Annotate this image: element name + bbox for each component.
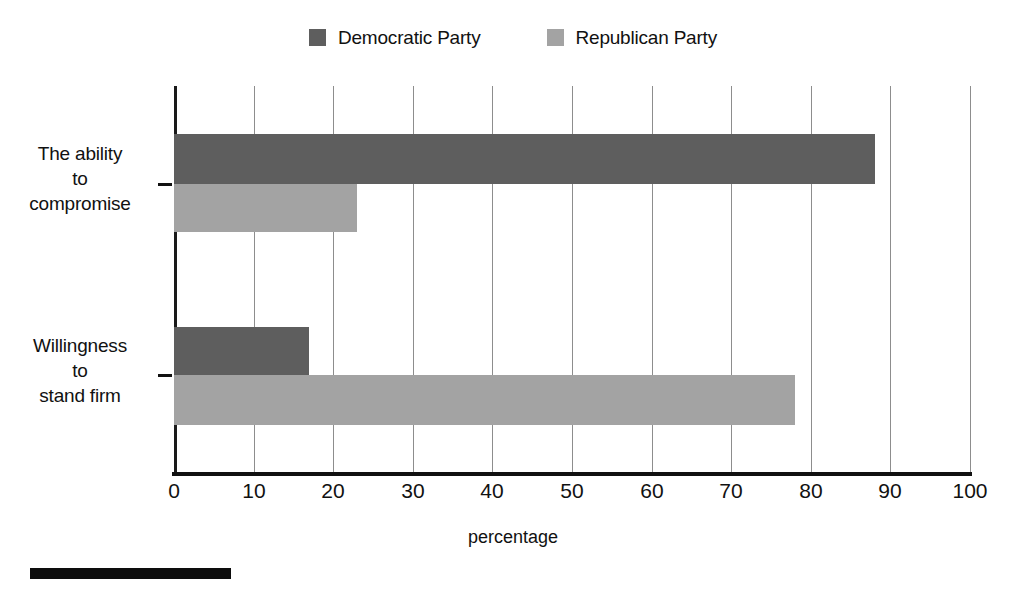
chart-legend: Democratic Party Republican Party	[0, 28, 1026, 47]
category-label-compromise-line3: compromise	[0, 191, 160, 216]
xtick-label-20: 20	[321, 480, 344, 501]
legend-item-democratic: Democratic Party	[309, 28, 481, 47]
category-label-stand-firm-line1: Willingness	[0, 333, 160, 358]
ytick-stand-firm	[158, 374, 172, 377]
legend-label-republican: Republican Party	[576, 28, 718, 47]
xtick-label-40: 40	[480, 480, 503, 501]
xtick-label-100: 100	[952, 480, 987, 501]
xtick-label-50: 50	[560, 480, 583, 501]
category-label-stand-firm-line3: stand firm	[0, 383, 160, 408]
bar-chart: Democratic Party Republican Party	[0, 0, 1026, 606]
gridline-100	[970, 86, 971, 472]
bar-democratic-stand-firm	[174, 327, 309, 375]
plot-area	[174, 86, 970, 472]
xtick-label-90: 90	[878, 480, 901, 501]
category-label-compromise: The ability to compromise	[0, 141, 160, 216]
footer-rule	[30, 568, 231, 579]
xtick-label-80: 80	[799, 480, 822, 501]
legend-swatch-democratic	[309, 29, 326, 46]
category-label-stand-firm-line2: to	[0, 358, 160, 383]
legend-item-republican: Republican Party	[547, 28, 718, 47]
x-axis-line	[172, 472, 972, 476]
category-label-compromise-line2: to	[0, 166, 160, 191]
xtick-label-70: 70	[719, 480, 742, 501]
category-label-compromise-line1: The ability	[0, 141, 160, 166]
x-axis-title: percentage	[0, 528, 1026, 546]
category-label-stand-firm: Willingness to stand firm	[0, 333, 160, 408]
xtick-label-60: 60	[640, 480, 663, 501]
bar-republican-stand-firm	[174, 375, 795, 425]
xtick-label-10: 10	[242, 480, 265, 501]
ytick-compromise	[158, 183, 172, 186]
bar-democratic-compromise	[174, 134, 875, 184]
xtick-label-0: 0	[168, 480, 180, 501]
gridline-90	[890, 86, 891, 472]
bar-republican-compromise	[174, 184, 357, 232]
legend-swatch-republican	[547, 29, 564, 46]
xtick-label-30: 30	[401, 480, 424, 501]
legend-label-democratic: Democratic Party	[338, 28, 481, 47]
